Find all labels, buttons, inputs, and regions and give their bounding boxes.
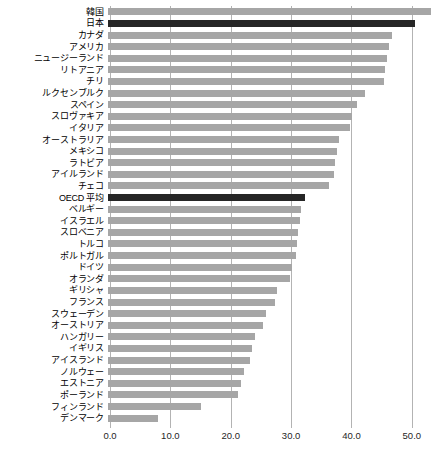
bar-row: ラトビア: [0, 157, 439, 169]
bar: [108, 32, 392, 39]
bar-chart: 韓国日本カナダアメリカニュージーランドリトアニアチリルクセンブルクスペインスロヴ…: [0, 0, 439, 459]
bar-track: [108, 29, 439, 41]
tick-label: 40.0: [342, 430, 361, 441]
category-label: オーストリア: [0, 320, 108, 330]
bar-rows: 韓国日本カナダアメリカニュージーランドリトアニアチリルクセンブルクスペインスロヴ…: [0, 6, 439, 424]
bar: [108, 124, 350, 131]
category-label: フィンランド: [0, 402, 108, 412]
bar-track: [108, 169, 439, 181]
bar: [108, 391, 238, 398]
bar-row: トルコ: [0, 238, 439, 250]
bar-row: デンマーク: [0, 412, 439, 424]
bar-row: フィンランド: [0, 401, 439, 413]
tick-mark: [170, 424, 171, 428]
bar: [108, 368, 244, 375]
bar-row: ルクセンブルク: [0, 87, 439, 99]
bar-track: [108, 157, 439, 169]
category-label: チェコ: [0, 181, 108, 191]
bar-track: [108, 296, 439, 308]
bar-track: [108, 354, 439, 366]
tick-mark: [412, 424, 413, 428]
tick-label: 0.0: [103, 430, 116, 441]
bar-track: [108, 238, 439, 250]
bar: [108, 20, 415, 27]
bar: [108, 299, 275, 306]
bar-track: [108, 285, 439, 297]
category-label: スロヴァキア: [0, 111, 108, 121]
bar-track: [108, 180, 439, 192]
bar: [108, 78, 384, 85]
bar-track: [108, 250, 439, 262]
bar: [108, 182, 329, 189]
bar-track: [108, 308, 439, 320]
bar-row: メキシコ: [0, 145, 439, 157]
bar-row: イスラエル: [0, 215, 439, 227]
bar: [108, 264, 292, 271]
category-label: ノルウェー: [0, 367, 108, 377]
tick-label: 50.0: [403, 430, 422, 441]
bar-row: ポルトガル: [0, 250, 439, 262]
bar-track: [108, 76, 439, 88]
bar-row: ニュージーランド: [0, 52, 439, 64]
category-label: 韓国: [0, 7, 108, 17]
bar-row: オランダ: [0, 273, 439, 285]
tick-label: 30.0: [282, 430, 301, 441]
tick-label: 20.0: [221, 430, 240, 441]
bar: [108, 43, 389, 50]
bar-row: 日本: [0, 18, 439, 30]
category-label: ラトビア: [0, 158, 108, 168]
bar-row: エストニア: [0, 378, 439, 390]
bar-track: [108, 192, 439, 204]
bar-row: ノルウェー: [0, 366, 439, 378]
category-label: オーストラリア: [0, 135, 108, 145]
category-label: ギリシャ: [0, 285, 108, 295]
category-label: ベルギー: [0, 204, 108, 214]
bar-track: [108, 378, 439, 390]
category-label: スウェーデン: [0, 309, 108, 319]
bar-track: [108, 273, 439, 285]
category-label: アメリカ: [0, 42, 108, 52]
category-label: ポルトガル: [0, 251, 108, 261]
bar: [108, 275, 290, 282]
bar: [108, 415, 158, 422]
category-label: スペイン: [0, 100, 108, 110]
bar-track: [108, 331, 439, 343]
bar: [108, 113, 352, 120]
bar: [108, 90, 365, 97]
category-label: デンマーク: [0, 413, 108, 423]
category-label: オランダ: [0, 274, 108, 284]
bar-row: ハンガリー: [0, 331, 439, 343]
bar-row: ギリシャ: [0, 285, 439, 297]
category-label: スロベニア: [0, 227, 108, 237]
category-label: トルコ: [0, 239, 108, 249]
bar-track: [108, 215, 439, 227]
category-label: ルクセンブルク: [0, 88, 108, 98]
category-label: OECD 平均: [0, 193, 108, 203]
bar-row: イタリア: [0, 122, 439, 134]
category-label: ハンガリー: [0, 332, 108, 342]
bar-row: オーストラリア: [0, 134, 439, 146]
category-label: アイスランド: [0, 355, 108, 365]
bar: [108, 333, 255, 340]
bar: [108, 194, 305, 201]
category-label: リトアニア: [0, 65, 108, 75]
bar-track: [108, 412, 439, 424]
bar: [108, 287, 277, 294]
bar: [108, 55, 387, 62]
category-label: フランス: [0, 297, 108, 307]
bar-row: スロヴァキア: [0, 110, 439, 122]
bar-track: [108, 122, 439, 134]
bar: [108, 66, 385, 73]
category-label: イタリア: [0, 123, 108, 133]
tick-mark: [231, 424, 232, 428]
bar-track: [108, 227, 439, 239]
category-label: メキシコ: [0, 146, 108, 156]
bar-track: [108, 319, 439, 331]
bar-row: チェコ: [0, 180, 439, 192]
category-label: カナダ: [0, 30, 108, 40]
bar-row: アイスランド: [0, 354, 439, 366]
tick-mark: [351, 424, 352, 428]
bar: [108, 101, 357, 108]
bar-row: ベルギー: [0, 203, 439, 215]
bar-row: ポーランド: [0, 389, 439, 401]
